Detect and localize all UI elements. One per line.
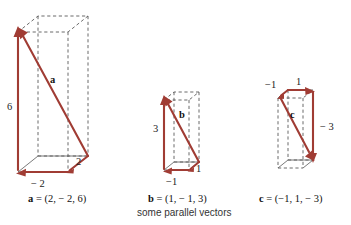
panel-b: 3 1 −1 b b = (1, − 1, 3) some parallel v… (137, 92, 231, 218)
figure-subtitle: some parallel vectors (137, 207, 231, 218)
caption-b: b = (1, − 1, 3) (148, 193, 207, 205)
vector-a-main (23, 36, 88, 156)
vector-c-y-leg (281, 90, 288, 96)
panel-a: 6 2 − 2 a a = (2, − 2, 6) (7, 16, 88, 205)
caption-c: c = (−1, 1, − 3) (259, 193, 323, 205)
label-b-z: 3 (153, 123, 158, 134)
box-b-face-top (164, 92, 199, 100)
caption-a-rest: = (2, − 2, 6) (33, 193, 86, 205)
caption-c-rest: = (−1, 1, − 3) (264, 193, 323, 205)
label-vector-b: b (179, 109, 185, 120)
label-c-z: − 3 (320, 121, 334, 132)
label-b-x: 1 (196, 163, 201, 174)
label-b-y: −1 (166, 176, 177, 187)
box-face-top (18, 16, 88, 32)
label-vector-c: c (290, 109, 295, 120)
label-vector-a: a (50, 74, 56, 85)
label-c-x: 1 (296, 76, 301, 87)
label-a-y: − 2 (31, 178, 45, 189)
vector-c-main (280, 97, 309, 152)
figure-canvas: 6 2 − 2 a a = (2, − 2, 6) 3 1 −1 (0, 0, 351, 225)
panel-c: −1 1 − 3 c c = (−1, 1, − 3) (259, 76, 334, 205)
caption-b-rest: = (1, − 1, 3) (154, 193, 207, 205)
label-a-x: 2 (76, 156, 81, 167)
vector-figure: 6 2 − 2 a a = (2, − 2, 6) 3 1 −1 (0, 0, 351, 225)
label-a-z: 6 (7, 101, 12, 112)
caption-a: a = (2, − 2, 6) (28, 193, 87, 205)
label-c-y: −1 (265, 79, 276, 90)
box-c-face-bottom (278, 160, 313, 168)
